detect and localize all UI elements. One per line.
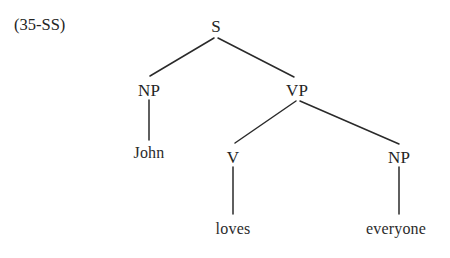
tree-edge-vp-v	[235, 101, 296, 143]
tree-edge-vp-object_np	[300, 101, 399, 144]
tree-edge-root-subject_np	[150, 38, 214, 76]
tree-edge-group	[149, 38, 399, 214]
node-subject-np: NP	[138, 82, 160, 99]
syntax-tree-figure: (35-SS) S NP VP John V NP loves everyone	[0, 0, 450, 258]
node-v: V	[227, 149, 239, 166]
tree-edge-root-vp	[218, 38, 294, 77]
terminal-john: John	[133, 145, 164, 161]
terminal-loves: loves	[216, 221, 251, 237]
node-vp: VP	[286, 82, 308, 99]
node-object-np: NP	[388, 149, 410, 166]
node-s: S	[211, 18, 221, 35]
terminal-everyone: everyone	[366, 221, 426, 237]
